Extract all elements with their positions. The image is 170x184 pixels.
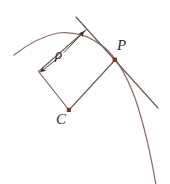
radius-line bbox=[69, 60, 115, 110]
tangent-line bbox=[76, 17, 158, 108]
point-marker-p bbox=[113, 58, 117, 62]
rho-arrow-upper bbox=[64, 32, 84, 53]
point-marker-c bbox=[67, 108, 71, 112]
plane-curve bbox=[14, 33, 156, 184]
label-point-p: P bbox=[117, 38, 126, 53]
figure-container: P C ρ bbox=[0, 0, 170, 184]
normal-construction-line bbox=[39, 30, 87, 110]
curvature-diagram-svg bbox=[0, 0, 170, 184]
label-radius-rho: ρ bbox=[55, 47, 62, 62]
label-point-c: C bbox=[56, 112, 66, 127]
